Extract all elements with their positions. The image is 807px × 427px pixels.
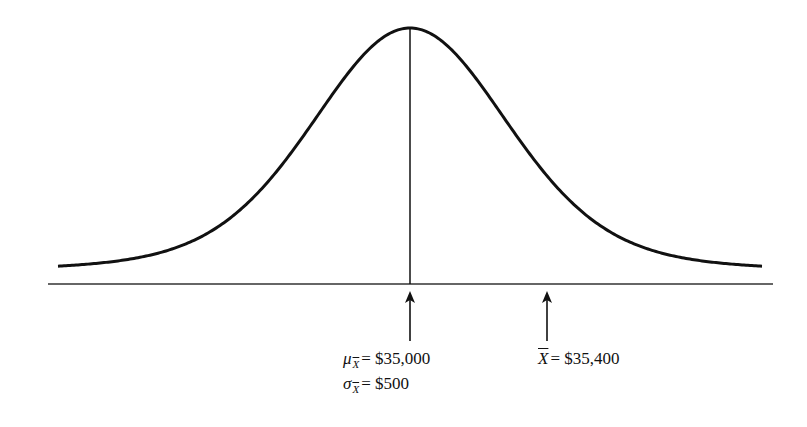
sigma-value: = $500 xyxy=(361,374,409,393)
xbar-value: = $35,400 xyxy=(550,349,619,368)
sigma-symbol: σ xyxy=(343,374,351,393)
mu-value: = $35,000 xyxy=(361,349,430,368)
mu-label: μX= $35,000 xyxy=(343,349,430,370)
sigma-label: σX= $500 xyxy=(343,374,409,395)
xbar-symbol: X xyxy=(538,349,548,368)
mu-symbol: μ xyxy=(343,349,352,368)
xbar-label: X= $35,400 xyxy=(538,349,619,369)
sigma-subscript: X xyxy=(352,383,359,395)
mu-subscript: X xyxy=(353,358,360,370)
